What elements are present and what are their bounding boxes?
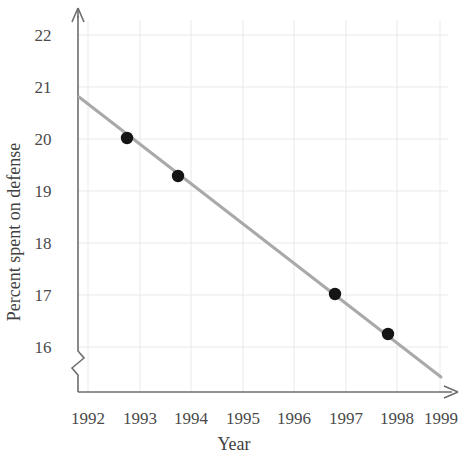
defense-spending-scatter-chart: 22 21 20 19 18 17 16 1992 1993 1994 1995… (0, 0, 460, 458)
data-point-1993[interactable] (121, 132, 133, 144)
chart-page: 22 21 20 19 18 17 16 1992 1993 1994 1995… (0, 0, 460, 458)
y-tick-label-22: 22 (35, 26, 52, 45)
x-axis-title: Year (217, 434, 250, 454)
x-tick-label-1997: 1997 (329, 409, 364, 428)
data-point-1994[interactable] (172, 170, 184, 182)
y-tick-label-18: 18 (35, 234, 52, 253)
x-axis (78, 386, 458, 398)
x-tick-label-1998: 1998 (380, 409, 414, 428)
x-tick-label-1993: 1993 (123, 409, 157, 428)
y-tick-label-17: 17 (35, 286, 53, 305)
x-tick-label-1999: 1999 (424, 409, 458, 428)
x-tick-label-1995: 1995 (226, 409, 260, 428)
x-tick-label-1992: 1992 (71, 409, 105, 428)
y-axis-tick-labels: 22 21 20 19 18 17 16 (35, 26, 53, 357)
x-axis-tick-labels: 1992 1993 1994 1995 1996 1997 1998 1999 (71, 409, 458, 428)
y-tick-label-21: 21 (35, 78, 52, 97)
data-point-1998[interactable] (382, 328, 394, 340)
y-tick-label-16: 16 (35, 338, 52, 357)
gridlines-horizontal (78, 35, 448, 347)
y-axis-title: Percent spent on defense (4, 143, 24, 321)
y-axis (72, 8, 84, 392)
x-tick-label-1996: 1996 (277, 409, 311, 428)
y-tick-label-20: 20 (35, 130, 52, 149)
y-tick-label-19: 19 (35, 182, 52, 201)
x-tick-label-1994: 1994 (174, 409, 209, 428)
data-point-1997[interactable] (329, 288, 341, 300)
